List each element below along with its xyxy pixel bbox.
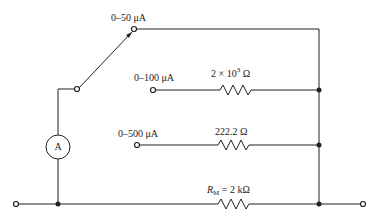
resistor-label-rm: RM = 2 kΩ xyxy=(207,185,250,195)
circuit-wiring xyxy=(0,0,375,221)
input-terminal-left xyxy=(14,202,19,207)
resistor-label-2e3: 2 × 103 Ω xyxy=(211,69,250,79)
terminal-100ua xyxy=(151,88,156,93)
range-label-100ua: 0–100 μA xyxy=(134,73,174,83)
terminal-50ua xyxy=(132,27,137,32)
resistor-label-222: 222.2 Ω xyxy=(215,127,247,137)
ammeter-label: A xyxy=(46,142,70,152)
range-label-50ua: 0–50 μA xyxy=(111,13,146,23)
circuit-diagram: A 0–50 μA 0–100 μA 0–500 μA 2 × 103 Ω 22… xyxy=(0,0,375,221)
input-terminal-right xyxy=(361,202,366,207)
range-label-500ua: 0–500 μA xyxy=(118,129,158,139)
terminal-500ua xyxy=(135,143,140,148)
switch-pivot xyxy=(75,87,80,92)
